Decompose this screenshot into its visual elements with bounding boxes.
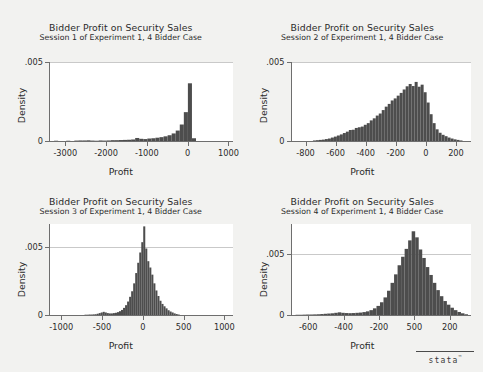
xtick-mark bbox=[308, 316, 309, 320]
panel-2-ytick-label-0: 0 bbox=[248, 136, 285, 146]
panel-3-y-axis-label: Density bbox=[16, 245, 27, 315]
panel-1-y-axis-label: Density bbox=[16, 71, 27, 141]
xtick-label: 200 bbox=[442, 322, 458, 332]
panel-2-titles: Bidder Profit on Security Sales Session … bbox=[242, 22, 483, 43]
panel-1-subtitle: Session 1 of Experiment 1, 4 Bidder Case bbox=[0, 33, 242, 43]
xtick-label: 0 bbox=[140, 322, 145, 332]
xtick-label: -400 bbox=[334, 322, 353, 332]
xtick-mark bbox=[426, 142, 427, 146]
xtick-label: -400 bbox=[356, 148, 375, 158]
xtick-mark bbox=[224, 316, 225, 320]
xtick-label: -1000 bbox=[135, 148, 159, 158]
xtick-mark bbox=[414, 316, 415, 320]
panel-session-1: Bidder Profit on Security Sales Session … bbox=[0, 0, 242, 186]
panel-1-titles: Bidder Profit on Security Sales Session … bbox=[0, 22, 242, 43]
panel-4-title: Bidder Profit on Security Sales bbox=[242, 196, 483, 207]
xtick-label: -600 bbox=[326, 148, 345, 158]
panel-1-histogram bbox=[50, 62, 233, 141]
xtick-label: -800 bbox=[296, 148, 315, 158]
xtick-mark bbox=[336, 142, 337, 146]
stata-logo-wordmark: stata™ bbox=[416, 353, 474, 365]
panel-4-x-axis-label: Profit bbox=[242, 340, 483, 351]
xtick-mark bbox=[147, 142, 148, 146]
xtick-label: -1000 bbox=[49, 322, 73, 332]
panel-1-plot-area bbox=[49, 62, 233, 142]
xtick-mark bbox=[184, 316, 185, 320]
xtick-label: -3000 bbox=[53, 148, 77, 158]
xtick-mark bbox=[344, 316, 345, 320]
panel-3-subtitle: Session 3 of Experiment 1, 4 Bidder Case bbox=[0, 207, 242, 217]
xtick-mark bbox=[396, 142, 397, 146]
stata-logo: stata™ bbox=[416, 351, 474, 365]
xtick-mark bbox=[228, 142, 229, 146]
xtick-label: -200 bbox=[370, 322, 389, 332]
stata-logo-text: stata bbox=[428, 356, 458, 365]
panel-2-ytick-label-005: .005 bbox=[248, 57, 285, 67]
xtick-mark bbox=[306, 142, 307, 146]
xtick-mark bbox=[188, 142, 189, 146]
panel-4-subtitle: Session 4 of Experiment 1, 4 Bidder Case bbox=[242, 207, 483, 217]
panel-3-titles: Bidder Profit on Security Sales Session … bbox=[0, 196, 242, 217]
xtick-mark bbox=[366, 142, 367, 146]
panel-session-3: Bidder Profit on Security Sales Session … bbox=[0, 186, 242, 372]
xtick-mark bbox=[106, 142, 107, 146]
trademark-icon: ™ bbox=[459, 354, 462, 360]
xtick-mark bbox=[450, 316, 451, 320]
panel-4-titles: Bidder Profit on Security Sales Session … bbox=[242, 196, 483, 217]
panel-2-y-axis-label: Density bbox=[257, 71, 268, 141]
xtick-label: 0 bbox=[185, 148, 190, 158]
xtick-label: 1000 bbox=[218, 148, 239, 158]
xtick-mark bbox=[61, 316, 62, 320]
panel-1-title: Bidder Profit on Security Sales bbox=[0, 22, 242, 33]
panel-1-ytick-label-0: 0 bbox=[6, 136, 43, 146]
xtick-mark bbox=[379, 316, 380, 320]
xtick-label: -200 bbox=[386, 148, 405, 158]
panel-4-histogram bbox=[292, 224, 472, 315]
panel-3-ytick-label-0: 0 bbox=[6, 310, 43, 320]
panel-2-ytick-mark-0 bbox=[287, 141, 291, 142]
panel-1-ytick-mark-0 bbox=[45, 141, 49, 142]
xtick-label: 500 bbox=[176, 322, 192, 332]
panel-session-2: Bidder Profit on Security Sales Session … bbox=[242, 0, 483, 186]
panel-3-ytick-mark-0 bbox=[45, 315, 49, 316]
xtick-mark bbox=[65, 142, 66, 146]
xtick-mark bbox=[102, 316, 103, 320]
panel-2-subtitle: Session 2 of Experiment 1, 4 Bidder Case bbox=[242, 33, 483, 43]
xtick-label: 1000 bbox=[214, 322, 235, 332]
panel-3-ytick-label-005: .005 bbox=[6, 242, 43, 252]
stata-logo-rule bbox=[416, 351, 474, 352]
panel-session-4: Bidder Profit on Security Sales Session … bbox=[242, 186, 483, 372]
xtick-label: 200 bbox=[448, 148, 464, 158]
panel-grid: Bidder Profit on Security Sales Session … bbox=[0, 0, 483, 372]
panel-2-title: Bidder Profit on Security Sales bbox=[242, 22, 483, 33]
xtick-label: -2000 bbox=[94, 148, 118, 158]
panel-4-ytick-mark-0 bbox=[287, 315, 291, 316]
panel-1-x-axis-label: Profit bbox=[0, 166, 242, 177]
panel-2-histogram bbox=[292, 62, 472, 141]
panel-2-plot-area bbox=[291, 62, 472, 142]
panel-4-ytick-label-0: 0 bbox=[248, 310, 285, 320]
xtick-mark bbox=[143, 316, 144, 320]
panel-3-ytick-mark-005 bbox=[45, 247, 49, 248]
panel-1-ytick-label-005: .005 bbox=[6, 57, 43, 67]
xtick-label: -600 bbox=[299, 322, 318, 332]
panel-2-ytick-mark-005 bbox=[287, 62, 291, 63]
panel-1-ytick-mark-005 bbox=[45, 62, 49, 63]
panel-3-histogram bbox=[50, 224, 233, 315]
xtick-label: -500 bbox=[93, 322, 112, 332]
panel-4-ytick-label-005: .005 bbox=[248, 249, 285, 259]
panel-4-ytick-mark-005 bbox=[287, 254, 291, 255]
panel-3-title: Bidder Profit on Security Sales bbox=[0, 196, 242, 207]
stata-graph-figure: Bidder Profit on Security Sales Session … bbox=[0, 0, 483, 372]
panel-3-plot-area bbox=[49, 224, 233, 316]
panel-4-plot-area bbox=[291, 224, 472, 316]
panel-3-x-axis-label: Profit bbox=[0, 340, 242, 351]
xtick-mark bbox=[456, 142, 457, 146]
xtick-label: 0 bbox=[423, 148, 428, 158]
xtick-label: 500 bbox=[407, 322, 423, 332]
panel-2-x-axis-label: Profit bbox=[242, 166, 483, 177]
